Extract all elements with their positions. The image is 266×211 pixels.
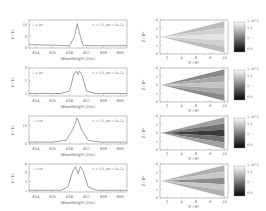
x-axis-label: Wavelength (nm): [61, 56, 96, 61]
x-tick-label: 10: [222, 152, 227, 156]
y-tick-label: 5: [25, 35, 27, 39]
colorbar: [234, 118, 245, 148]
x-axis-label: R / R*: [189, 204, 200, 209]
x-tick-label: 655: [49, 99, 56, 103]
colorbar: [234, 70, 245, 100]
colorbar-tick-label: 0.5: [247, 95, 252, 99]
y-tick-label: -4: [155, 196, 158, 200]
x-axis-label: Wavelength (nm): [61, 200, 96, 205]
x-tick-label: 659: [117, 51, 125, 55]
colorbar-tick-label: 1: [247, 84, 249, 88]
x-tick-label: 10: [222, 104, 227, 108]
x-tick-label: 656: [66, 147, 74, 151]
colorbar-tick-label: 1.5: [247, 122, 252, 126]
x-tick-label: 655: [49, 51, 56, 55]
y-tick-label: -4: [155, 52, 158, 56]
y-tick-label: 1: [25, 92, 27, 96]
x-tick-label: 8: [209, 56, 212, 60]
x-tick-label: 654: [32, 195, 40, 199]
x-tick-label: 659: [117, 195, 125, 199]
parameters-annotation: n = 7.5, ρ0 = 5e-11: [92, 23, 124, 27]
colorbar-scale-label: × 10^4: [247, 67, 259, 71]
x-tick-label: 659: [117, 99, 125, 103]
colorbar-tick-label: 1: [247, 180, 249, 184]
parameters-annotation: n = 3.5, ρ0 = 5e-11: [92, 167, 124, 171]
line-plot-d: 6546556566576586591234i = 60n = 3.5, ρ0 …: [0, 162, 133, 210]
x-tick-label: 4: [180, 200, 183, 204]
parameters-annotation: n = 3.5, ρ0 = 5e-11: [92, 71, 124, 75]
x-tick-label: 654: [32, 51, 40, 55]
y-axis-label: Z / R*: [141, 175, 146, 186]
x-tick-label: 655: [49, 147, 56, 151]
y-tick-label: 2: [156, 75, 158, 79]
x-axis-label: R / R*: [189, 156, 200, 161]
x-axis-label: Wavelength (nm): [61, 152, 96, 157]
x-tick-label: 658: [100, 195, 108, 199]
inclination-annotation: i = 60: [33, 119, 43, 123]
y-tick-label: 0: [156, 35, 158, 39]
y-tick-label: 0: [156, 131, 158, 135]
inclination-annotation: i = 60: [33, 167, 43, 171]
x-tick-label: 657: [83, 99, 90, 103]
y-axis-label: Z / R*: [141, 79, 146, 90]
x-tick-label: 654: [32, 99, 40, 103]
x-axis-label: R / R*: [189, 60, 200, 65]
heatmap-g: 246810-4-2024R / R*Z / R*0.511.5× 10^4: [133, 114, 266, 162]
x-tick-label: 658: [100, 51, 108, 55]
colorbar-scale-label: × 10^4: [247, 163, 259, 167]
parameters-annotation: n = 7.5, ρ0 = 5e-11: [92, 119, 124, 123]
y-tick-label: 2: [25, 79, 27, 83]
x-tick-label: 10: [222, 56, 227, 60]
x-tick-label: 657: [83, 147, 90, 151]
y-axis-label: F / Fc: [10, 77, 15, 87]
colorbar-tick-label: 1.5: [247, 26, 252, 30]
x-tick-label: 2: [166, 200, 168, 204]
y-tick-label: 2: [25, 180, 27, 184]
x-tick-label: 8: [209, 104, 212, 108]
y-tick-label: 2: [156, 171, 158, 175]
y-tick-label: -2: [155, 44, 158, 48]
y-axis-label: F / Fc: [10, 29, 15, 39]
y-tick-label: 0: [156, 83, 158, 87]
x-tick-label: 656: [66, 51, 74, 55]
x-tick-label: 4: [180, 152, 183, 156]
y-tick-label: 0: [25, 46, 28, 50]
colorbar-scale-label: × 10^4: [247, 115, 259, 119]
y-tick-label: 0: [156, 179, 158, 183]
x-tick-label: 658: [100, 147, 108, 151]
x-tick-label: 2: [166, 56, 168, 60]
inclination-annotation: i = 20: [33, 71, 43, 75]
y-tick-label: 2: [156, 27, 158, 31]
y-tick-label: 3: [25, 171, 27, 175]
y-tick-label: 0: [25, 142, 28, 146]
y-tick-label: 4: [156, 18, 158, 22]
line-plot-b: 654655656657658659123i = 20n = 3.5, ρ0 =…: [0, 66, 133, 114]
x-axis-label: R / R*: [189, 108, 200, 113]
x-tick-label: 656: [66, 195, 74, 199]
x-tick-label: 10: [222, 200, 227, 204]
x-tick-label: 657: [83, 51, 90, 55]
y-tick-label: -2: [155, 92, 158, 96]
colorbar-tick-label: 1: [247, 132, 249, 136]
x-tick-label: 8: [209, 152, 212, 156]
y-tick-label: 10: [22, 23, 27, 27]
y-tick-label: -4: [155, 100, 158, 104]
x-tick-label: 655: [49, 195, 56, 199]
y-tick-label: 2: [156, 123, 158, 127]
line-plot-a: 6546556566576586590510i = 20n = 7.5, ρ0 …: [0, 18, 133, 66]
colorbar-tick-label: 0.5: [247, 143, 252, 147]
x-tick-label: 4: [180, 104, 183, 108]
x-axis-label: Wavelength (nm): [61, 104, 96, 109]
heatmap-f: 246810-4-2024R / R*Z / R*0.511.5× 10^4: [133, 66, 266, 114]
y-axis-label: Z / R*: [141, 31, 146, 42]
x-tick-label: 659: [117, 147, 125, 151]
y-tick-label: 4: [25, 162, 28, 166]
y-tick-label: 1: [25, 189, 27, 193]
colorbar-tick-label: 1.5: [247, 74, 252, 78]
inclination-annotation: i = 20: [33, 23, 43, 27]
x-tick-label: 2: [166, 104, 168, 108]
colorbar: [234, 166, 245, 196]
colorbar-tick-label: 0.5: [247, 191, 252, 195]
x-tick-label: 654: [32, 147, 40, 151]
x-tick-label: 656: [66, 99, 74, 103]
